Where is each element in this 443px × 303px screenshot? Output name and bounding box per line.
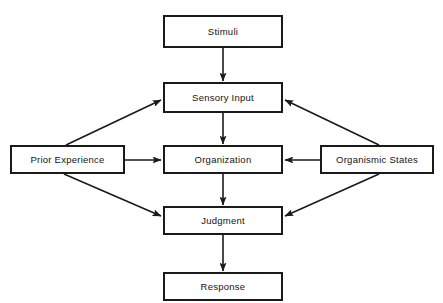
- node-label-response: Response: [201, 282, 246, 292]
- node-label-judgment: Judgment: [201, 216, 245, 226]
- edge-prior-experience-to-sensory-input: [66, 100, 161, 145]
- node-label-sensory-input: Sensory Input: [192, 93, 254, 103]
- node-organismic-states[interactable]: Organismic States: [320, 145, 434, 174]
- node-prior-experience[interactable]: Prior Experience: [10, 145, 125, 174]
- node-response[interactable]: Response: [163, 272, 283, 301]
- node-label-organismic-states: Organismic States: [336, 155, 418, 165]
- node-stimuli[interactable]: Stimuli: [163, 15, 283, 48]
- edge-prior-experience-to-judgment: [64, 174, 161, 216]
- node-judgment[interactable]: Judgment: [163, 206, 283, 235]
- node-label-organization: Organization: [195, 155, 252, 165]
- node-sensory-input[interactable]: Sensory Input: [163, 82, 283, 113]
- edge-organismic-states-to-judgment: [285, 174, 379, 216]
- edge-organismic-states-to-sensory-input: [285, 100, 379, 145]
- node-label-prior-experience: Prior Experience: [30, 155, 104, 165]
- node-label-stimuli: Stimuli: [208, 27, 238, 37]
- flowchart-diagram: Stimuli Sensory Input Prior Experience O…: [0, 0, 443, 303]
- node-organization[interactable]: Organization: [163, 145, 283, 174]
